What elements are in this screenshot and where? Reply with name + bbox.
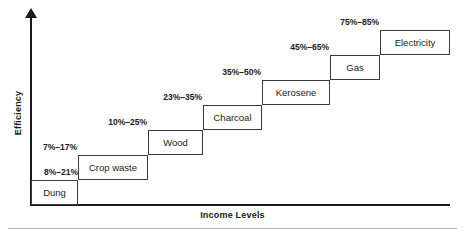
step-range-electricity: 75%–85% bbox=[318, 18, 379, 27]
x-axis-label: Income Levels bbox=[0, 210, 465, 220]
step-box-dung: Dung bbox=[31, 180, 78, 205]
step-range-charcoal: 23%–35% bbox=[141, 93, 202, 102]
step-label: Dung bbox=[43, 188, 66, 198]
step-range-kerosene: 35%–50% bbox=[200, 68, 261, 77]
step-label: Crop waste bbox=[89, 163, 137, 173]
y-axis-line bbox=[30, 16, 32, 206]
step-range-dung: 8%–21% bbox=[0, 168, 78, 177]
step-box-charcoal: Charcoal bbox=[203, 105, 262, 130]
step-label: Charcoal bbox=[213, 113, 251, 123]
bottom-divider bbox=[8, 228, 457, 229]
step-box-crop-waste: Crop waste bbox=[78, 155, 148, 180]
step-label: Kerosene bbox=[276, 88, 317, 98]
step-label: Gas bbox=[346, 63, 363, 73]
step-box-wood: Wood bbox=[148, 130, 203, 155]
y-axis-label: Efficiency bbox=[13, 73, 23, 153]
step-label: Electricity bbox=[395, 38, 436, 48]
step-range-gas: 45%–65% bbox=[268, 43, 329, 52]
step-range-crop-waste: 7%–17% bbox=[22, 143, 77, 152]
energy-ladder-chart: Efficiency Income Levels Dung8%–21%Crop … bbox=[0, 0, 465, 235]
x-axis-line bbox=[30, 204, 450, 206]
step-box-kerosene: Kerosene bbox=[262, 80, 330, 105]
step-range-wood: 10%–25% bbox=[86, 118, 147, 127]
step-box-gas: Gas bbox=[330, 55, 380, 80]
step-label: Wood bbox=[163, 138, 188, 148]
step-box-electricity: Electricity bbox=[380, 30, 450, 55]
